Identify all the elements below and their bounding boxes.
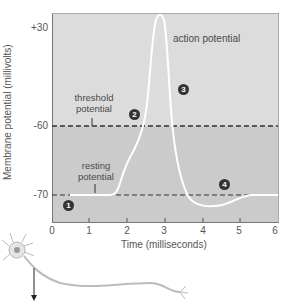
action-potential-label: action potential [173, 33, 240, 44]
threshold-potential-label: threshold potential [67, 92, 121, 114]
resting-label-line2: potential [69, 171, 123, 182]
x-tick-5: 5 [232, 225, 246, 236]
x-ticks [89, 218, 240, 222]
x-axis-label: Time (milliseconds) [121, 239, 207, 250]
marker-1: 1 [63, 200, 74, 211]
arrow-down-icon [31, 268, 37, 301]
threshold-label-line2: potential [67, 103, 121, 114]
x-tick-3: 3 [157, 225, 171, 236]
y-tick-minus70: -70 [14, 189, 48, 200]
x-tick-0: 0 [45, 225, 59, 236]
marker-3: 3 [178, 84, 189, 95]
resting-potential-label: resting potential [69, 160, 123, 182]
threshold-label-line1: threshold [67, 92, 121, 103]
y-axis-label: Membrane potential (millivolts) [2, 44, 13, 180]
y-tick-plus30: +30 [14, 22, 48, 33]
x-tick-4: 4 [196, 225, 210, 236]
marker-4: 4 [219, 179, 230, 190]
resting-label-line1: resting [69, 160, 123, 171]
x-tick-2: 2 [120, 225, 134, 236]
y-tick-minus60: -60 [14, 120, 48, 131]
x-tick-6: 6 [268, 225, 282, 236]
x-tick-1: 1 [82, 225, 96, 236]
marker-2: 2 [129, 109, 140, 120]
plot-lines [0, 0, 294, 301]
